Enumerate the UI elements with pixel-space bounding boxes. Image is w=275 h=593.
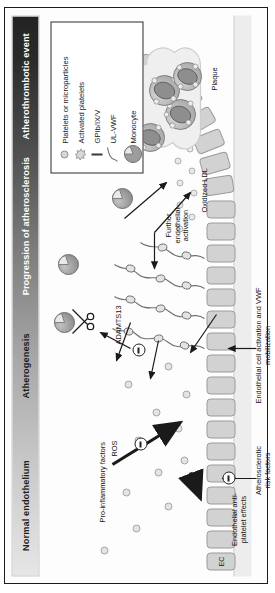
label-adamts13: ADAMTS13 — [114, 305, 123, 344]
monocyte-cell — [58, 254, 78, 274]
platelet-dot-icon — [60, 143, 68, 165]
arrow-ros-2 — [150, 340, 158, 378]
label-ros: ROS — [110, 440, 119, 456]
arrow-endothelial-antiplatelet — [190, 472, 200, 498]
legend-item-activated-platelets: Activated platelets — [72, 28, 88, 165]
legend-item-monocyte: Monocyte — [120, 28, 145, 165]
label-plaque: Plaque — [210, 67, 219, 90]
legend-item-ul-vwf: UL-VWF — [104, 28, 120, 165]
legend-item-gpib: GPIb/IX/V — [88, 28, 104, 165]
activated-platelet-star-icon — [74, 143, 86, 165]
rotated-diagram-canvas: Normal endothelium Atherogenesis Progres… — [4, 7, 268, 584]
label-ec-activation-vwf-mobilization: Endothelial cell activation and VWF mobi… — [254, 282, 271, 408]
legend-label-gpib: GPIb/IX/V — [92, 109, 101, 143]
figure-border: Normal endothelium Atherogenesis Progres… — [4, 7, 268, 584]
label-atherosclerotic-risk-factors: Atherosclerotic risk factors — [254, 440, 271, 500]
legend-box: Platelets or microparticles Activated pl… — [50, 21, 143, 173]
label-pro-inflammatory-factors: Pro-inflammatory factors — [98, 442, 107, 523]
gpib-receptor-bar-icon — [91, 143, 102, 165]
inhibition-symbol — [134, 437, 147, 450]
legend-label-monocyte: Monocyte — [128, 110, 137, 143]
foam-cell — [173, 62, 201, 90]
legend-item-platelets: Platelets or microparticles — [56, 28, 72, 165]
label-further-endothelial-activation: Further endothelial activation — [164, 196, 190, 254]
atherothrombosis-figure: Normal endothelium Atherogenesis Progres… — [0, 0, 275, 593]
monocyte-cell — [54, 312, 74, 332]
label-oxidized-ldl: Oxidized LDL — [200, 168, 209, 212]
monocyte-cell — [112, 188, 132, 208]
label-endothelial-antiplatelet-effects: Endothelial anti-platelet effects — [230, 482, 247, 556]
monocyte-cell-icon — [123, 143, 142, 165]
inhibition-symbol — [132, 343, 145, 356]
legend-label-platelets: Platelets or microparticles — [60, 56, 69, 143]
legend-label-activated-platelets: Activated platelets — [76, 81, 85, 143]
legend-label-ul-vwf: UL-VWF — [108, 114, 117, 143]
gpib-receptor-bead — [123, 243, 191, 350]
ul-vwf-strand-icon — [106, 143, 118, 165]
adamts13-scissors-icon — [72, 309, 93, 333]
arrow-ec-activation-2 — [190, 314, 216, 352]
